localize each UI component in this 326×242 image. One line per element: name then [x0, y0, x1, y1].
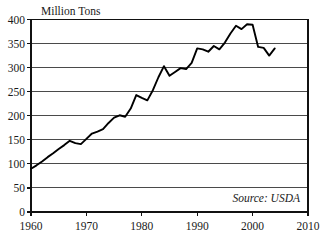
y-axis-title: Million Tons [41, 5, 101, 17]
x-tick-label: 1980 [130, 220, 153, 232]
x-tick-label: 1960 [20, 220, 43, 232]
y-tick-label: 50 [14, 182, 26, 194]
y-tick-label: 400 [8, 14, 26, 26]
y-tick-label: 350 [8, 38, 26, 50]
y-tick-label: 150 [8, 134, 26, 146]
line-chart: Million Tons 050100150200250300350400 19… [0, 0, 326, 242]
chart-container: Million Tons 050100150200250300350400 19… [0, 0, 326, 242]
chart-background [0, 0, 326, 242]
source-note: Source: USDA [232, 192, 301, 204]
x-tick-label: 2000 [241, 220, 264, 232]
y-tick-label: 250 [8, 86, 26, 98]
y-tick-label: 100 [8, 158, 26, 170]
x-tick-label: 2010 [297, 220, 320, 232]
x-tick-label: 1990 [186, 220, 209, 232]
x-tick-label: 1970 [75, 220, 98, 232]
y-tick-label: 200 [8, 110, 26, 122]
y-tick-label: 0 [19, 206, 25, 218]
y-tick-label: 300 [8, 62, 26, 74]
